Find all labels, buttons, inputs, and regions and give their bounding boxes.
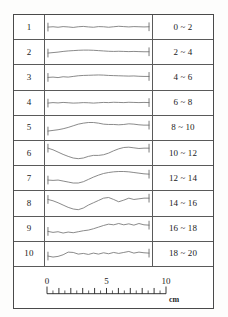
row-index-label: 1 <box>14 23 44 32</box>
profile-trace-svg <box>44 242 153 266</box>
profile-trace-cell <box>44 141 153 165</box>
table-row: 58 ~ 10 <box>14 116 213 141</box>
profile-trace-cell <box>44 191 153 215</box>
scale-bar-svg: 0510 <box>14 267 213 308</box>
profile-line <box>48 172 149 184</box>
scale-bar-area: 0510 cm <box>14 267 213 308</box>
row-index-label: 2 <box>14 48 44 57</box>
row-index-label: 5 <box>14 123 44 132</box>
profile-trace-svg <box>44 91 153 115</box>
row-range-label: 4 ~ 6 <box>153 73 213 82</box>
profile-line <box>48 26 149 27</box>
profile-line <box>48 251 149 257</box>
profile-trace-svg <box>44 141 153 165</box>
column-divider <box>152 91 153 115</box>
profile-trace-svg <box>44 166 153 190</box>
profile-line <box>48 102 149 103</box>
profile-line <box>48 198 149 210</box>
profile-line <box>48 122 149 131</box>
row-index-label: 4 <box>14 98 44 107</box>
row-index-label: 8 <box>14 199 44 208</box>
profile-trace-svg <box>44 40 153 64</box>
profile-line <box>48 50 149 53</box>
row-range-label: 12 ~ 14 <box>153 174 213 183</box>
row-index-label: 9 <box>14 224 44 233</box>
table-row: 22 ~ 4 <box>14 40 213 65</box>
column-divider <box>152 141 153 165</box>
row-range-label: 2 ~ 4 <box>153 48 213 57</box>
row-index-label: 6 <box>14 149 44 158</box>
scale-unit-label: cm <box>169 295 179 304</box>
column-divider <box>152 217 153 241</box>
profile-line <box>48 147 149 159</box>
column-divider <box>152 242 153 266</box>
row-range-label: 8 ~ 10 <box>153 123 213 132</box>
row-range-label: 16 ~ 18 <box>153 224 213 233</box>
profile-rows-area: 10 ~ 222 ~ 434 ~ 646 ~ 858 ~ 10610 ~ 127… <box>14 15 213 267</box>
row-range-label: 14 ~ 16 <box>153 199 213 208</box>
column-divider <box>152 65 153 89</box>
profile-line <box>48 223 149 233</box>
column-divider <box>152 191 153 215</box>
table-row: 46 ~ 8 <box>14 91 213 116</box>
row-index-label: 7 <box>14 174 44 183</box>
table-row: 814 ~ 16 <box>14 191 213 216</box>
row-range-label: 18 ~ 20 <box>153 249 213 258</box>
scale-tick-label: 10 <box>162 276 172 286</box>
profile-trace-cell <box>44 242 153 266</box>
row-index-label: 10 <box>14 249 44 258</box>
scale-tick-label: 0 <box>45 276 50 286</box>
profile-line <box>48 75 149 78</box>
table-row: 610 ~ 12 <box>14 141 213 166</box>
row-index-label: 3 <box>14 73 44 82</box>
column-divider <box>152 40 153 64</box>
figure-root: 10 ~ 222 ~ 434 ~ 646 ~ 858 ~ 10610 ~ 127… <box>0 0 228 317</box>
table-row: 34 ~ 6 <box>14 65 213 90</box>
column-divider <box>152 15 153 39</box>
profile-trace-svg <box>44 116 153 140</box>
table-row: 10 ~ 2 <box>14 15 213 40</box>
scale-tick-label: 5 <box>104 276 109 286</box>
table-row: 1018 ~ 20 <box>14 242 213 267</box>
column-divider <box>152 116 153 140</box>
row-range-label: 10 ~ 12 <box>153 149 213 158</box>
profile-trace-svg <box>44 15 153 39</box>
profile-trace-cell <box>44 65 153 89</box>
profile-trace-cell <box>44 15 153 39</box>
profile-trace-svg <box>44 191 153 215</box>
table-row: 916 ~ 18 <box>14 217 213 242</box>
row-range-label: 0 ~ 2 <box>153 23 213 32</box>
table-row: 712 ~ 14 <box>14 166 213 191</box>
row-range-label: 6 ~ 8 <box>153 98 213 107</box>
profile-trace-cell <box>44 217 153 241</box>
profile-trace-cell <box>44 166 153 190</box>
profile-trace-svg <box>44 217 153 241</box>
figure-frame: 10 ~ 222 ~ 434 ~ 646 ~ 858 ~ 10610 ~ 127… <box>13 14 214 309</box>
profile-trace-svg <box>44 65 153 89</box>
profile-trace-cell <box>44 116 153 140</box>
column-divider <box>152 166 153 190</box>
profile-trace-cell <box>44 91 153 115</box>
profile-trace-cell <box>44 40 153 64</box>
